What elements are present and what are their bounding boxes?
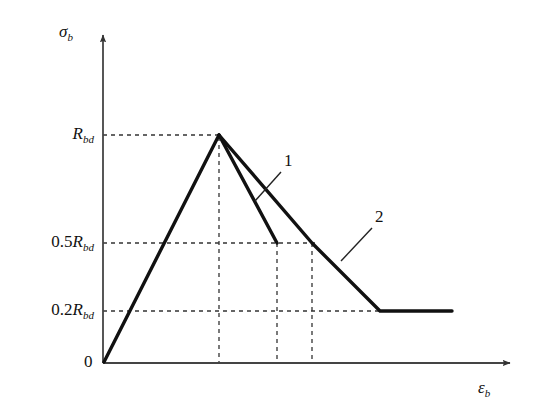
- x-axis-label-symbol: ε: [478, 378, 485, 397]
- y-tick-label-rbd: Rbd: [22, 125, 94, 145]
- y-tick-symbol-rbd: R: [73, 124, 83, 143]
- y-tick-symbol-05rbd: R: [73, 232, 83, 251]
- plot-area: [0, 0, 552, 415]
- x-axis-label-sub: b: [485, 387, 491, 399]
- y-tick-symbol-02rbd: R: [73, 300, 83, 319]
- leader-line-2: [341, 228, 372, 261]
- curve-label-2: 2: [375, 208, 384, 225]
- ascending-branch: [104, 135, 219, 362]
- origin-label: 0: [84, 353, 93, 370]
- y-tick-sub-02rbd: bd: [83, 309, 94, 321]
- gridlines-vertical: [219, 137, 312, 362]
- y-axis-label-sub: b: [67, 31, 73, 43]
- y-tick-prefix-05rbd: 0.5: [51, 232, 72, 251]
- y-tick-sub-05rbd: bd: [83, 241, 94, 253]
- softening-curve-2: [219, 135, 452, 311]
- softening-curve-1: [219, 135, 277, 243]
- y-tick-label-02rbd: 0.2Rbd: [12, 301, 94, 321]
- stress-strain-diagram: σb εb Rbd 0.5Rbd 0.2Rbd 0 1 2: [0, 0, 552, 415]
- leader-line-1: [255, 172, 281, 201]
- y-tick-label-05rbd: 0.5Rbd: [12, 233, 94, 253]
- y-tick-prefix-02rbd: 0.2: [51, 300, 72, 319]
- y-tick-sub-rbd: bd: [83, 133, 94, 145]
- x-axis-label: εb: [478, 379, 490, 399]
- y-axis-label: σb: [59, 23, 73, 43]
- curve-label-1: 1: [284, 152, 293, 169]
